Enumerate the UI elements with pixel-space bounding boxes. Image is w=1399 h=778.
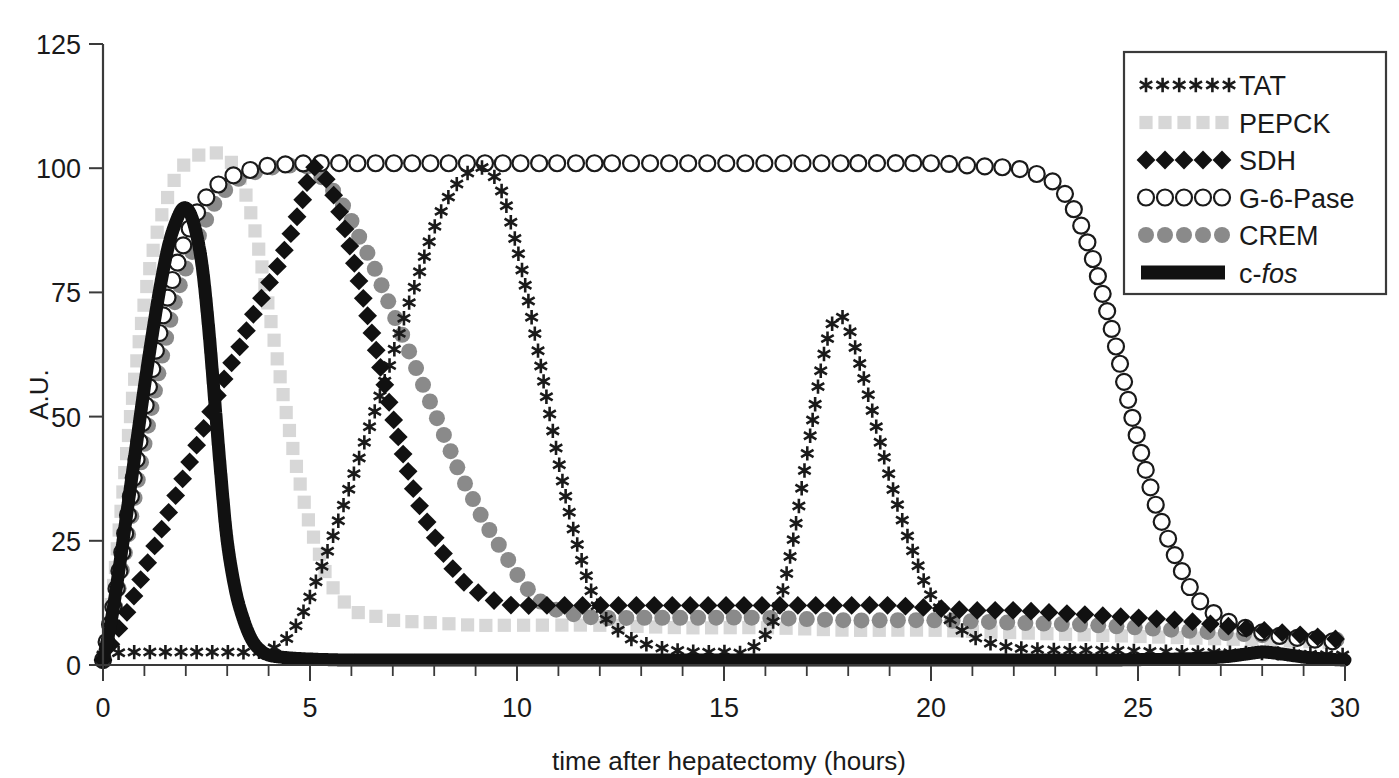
x-tick-label: 15 <box>709 693 739 723</box>
x-tick-label: 0 <box>95 693 110 723</box>
x-tick-label: 25 <box>1123 693 1153 723</box>
y-tick-label: 125 <box>36 30 81 60</box>
legend-swatch <box>1138 190 1230 206</box>
legend-layer: TATPEPCKSDHG-6-PaseCREMc-fos <box>1124 52 1386 294</box>
y-tick-label: 25 <box>51 527 81 557</box>
y-tick-label: 75 <box>51 278 81 308</box>
legend-label: TAT <box>1239 71 1286 101</box>
y-tick-label: 50 <box>51 403 81 433</box>
legend-label: c-fos <box>1239 259 1298 289</box>
chart-figure: 0255075100125051015202530A.U.time after … <box>0 0 1399 778</box>
x-axis-title: time after hepatectomy (hours) <box>552 746 906 776</box>
legend-swatch <box>1141 266 1225 280</box>
x-tick-label: 30 <box>1330 693 1360 723</box>
legend-label: CREM <box>1239 221 1319 251</box>
legend-label: SDH <box>1239 146 1296 176</box>
legend-label: G-6-Pase <box>1239 184 1355 214</box>
y-tick-label: 100 <box>36 154 81 184</box>
legend-label: PEPCK <box>1239 109 1331 139</box>
y-tick-label: 0 <box>66 651 81 681</box>
y-axis-title: A.U. <box>24 369 54 420</box>
x-tick-label: 10 <box>502 693 532 723</box>
chart-canvas: 0255075100125051015202530A.U.time after … <box>0 0 1399 778</box>
x-tick-label: 5 <box>302 693 317 723</box>
x-tick-label: 20 <box>916 693 946 723</box>
